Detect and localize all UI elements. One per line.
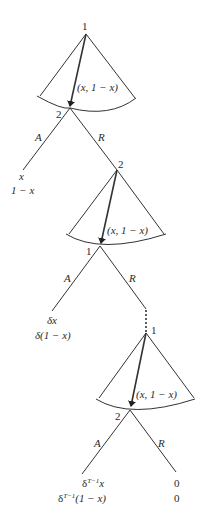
payoff-player1: δx (47, 314, 57, 326)
payoff-term: x (99, 477, 104, 489)
stageT-accept-branch (82, 410, 130, 474)
node-label-player: 1 (82, 20, 88, 32)
exponent: T−1 (87, 477, 99, 485)
stageT-reject-branch (130, 410, 176, 472)
stage1-reject-branch (70, 108, 117, 170)
payoff-player2: δT−1(1 − x) (58, 492, 106, 504)
payoff-player1: δT−1x (82, 477, 104, 489)
reject-label: R (158, 437, 165, 449)
reject-payoff-player1: 0 (174, 477, 180, 489)
stageT-offer-arc (96, 399, 195, 410)
offer-label: (x, 1 − x) (77, 81, 118, 93)
payoff-player2: 1 − x (11, 184, 34, 196)
node-label-player: 2 (115, 410, 121, 422)
exponent: T−1 (63, 492, 75, 500)
stage2-accept-branch (52, 246, 100, 311)
node-label-player: 2 (56, 108, 62, 120)
payoff-term: (1 − x) (75, 492, 106, 504)
reject-payoff-player2: 0 (174, 492, 180, 504)
payoff-player2: δ(1 − x) (35, 329, 71, 341)
node-label-player: 2 (118, 158, 124, 170)
node-label-player: 1 (86, 245, 92, 257)
stage2-reject-branch (100, 246, 146, 309)
reject-label: R (98, 131, 105, 143)
payoff-player1: x (19, 170, 24, 182)
accept-label: A (64, 272, 71, 284)
game-tree-lines (0, 0, 205, 519)
offer-label: (x, 1 − x) (136, 388, 177, 400)
reject-label: R (129, 272, 136, 284)
offer-label: (x, 1 − x) (107, 224, 148, 236)
node-label-player: 1 (151, 324, 157, 336)
accept-label: A (35, 131, 42, 143)
accept-label: A (94, 437, 101, 449)
stage1-accept-branch (23, 108, 70, 170)
stage1-offer-arc (37, 96, 136, 111)
